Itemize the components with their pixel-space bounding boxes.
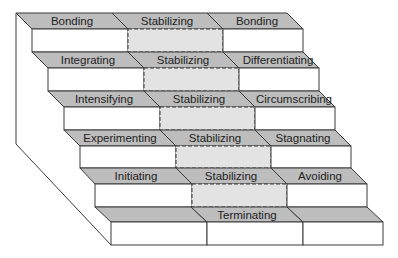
stage-label-stabilizing-2: Stabilizing xyxy=(173,93,225,105)
front-face-center xyxy=(192,184,287,207)
front-face-right xyxy=(271,146,351,168)
stage-label-differentiating: Differentiating xyxy=(243,54,314,66)
front-face-left xyxy=(95,184,192,207)
stage-label-terminating: Terminating xyxy=(217,209,276,221)
stage-label-intensifying: Intensifying xyxy=(75,93,133,105)
front-face-left xyxy=(48,68,144,91)
stage-label-experimenting: Experimenting xyxy=(83,132,157,144)
stage-label-bonding-left: Bonding xyxy=(51,15,93,27)
stage-label-stabilizing-1: Stabilizing xyxy=(157,54,209,66)
front-face-center xyxy=(144,68,239,91)
front-face-center xyxy=(160,107,255,130)
step-3: Experimenting Stabilizing Stagnating xyxy=(64,130,351,168)
front-face-center xyxy=(207,222,303,245)
front-face-right xyxy=(303,222,383,245)
stage-label-integrating: Integrating xyxy=(61,54,115,66)
front-face-left xyxy=(32,29,128,52)
front-face-right xyxy=(239,68,319,91)
stage-label-stabilizing-0: Stabilizing xyxy=(141,15,193,27)
top-face-left xyxy=(95,207,207,222)
stage-label-stagnating: Stagnating xyxy=(276,132,331,144)
step-1: Integrating Stabilizing Differentiating xyxy=(32,52,319,91)
front-face-center xyxy=(128,29,223,52)
step-5: Terminating xyxy=(95,207,383,245)
stage-label-initiating: Initiating xyxy=(115,170,158,182)
stage-label-avoiding: Avoiding xyxy=(298,170,342,182)
front-face-left xyxy=(80,146,176,168)
top-face-right xyxy=(287,207,383,222)
step-2: Intensifying Stabilizing Circumscribing xyxy=(48,91,335,130)
front-face-right xyxy=(287,184,367,207)
staircase-diagram: Bonding Stabilizing Bonding Integrating … xyxy=(0,0,398,258)
stage-label-circumscribing: Circumscribing xyxy=(256,93,332,105)
stage-label-stabilizing-4: Stabilizing xyxy=(205,170,257,182)
stage-label-bonding-right: Bonding xyxy=(236,15,278,27)
front-face-right xyxy=(223,29,303,52)
step-4: Initiating Stabilizing Avoiding xyxy=(80,168,367,207)
stage-label-stabilizing-3: Stabilizing xyxy=(189,132,241,144)
front-face-right xyxy=(255,107,335,130)
front-face-left xyxy=(111,222,207,245)
front-face-left xyxy=(64,107,160,130)
front-face-center xyxy=(176,146,271,168)
step-0: Bonding Stabilizing Bonding xyxy=(16,13,303,52)
